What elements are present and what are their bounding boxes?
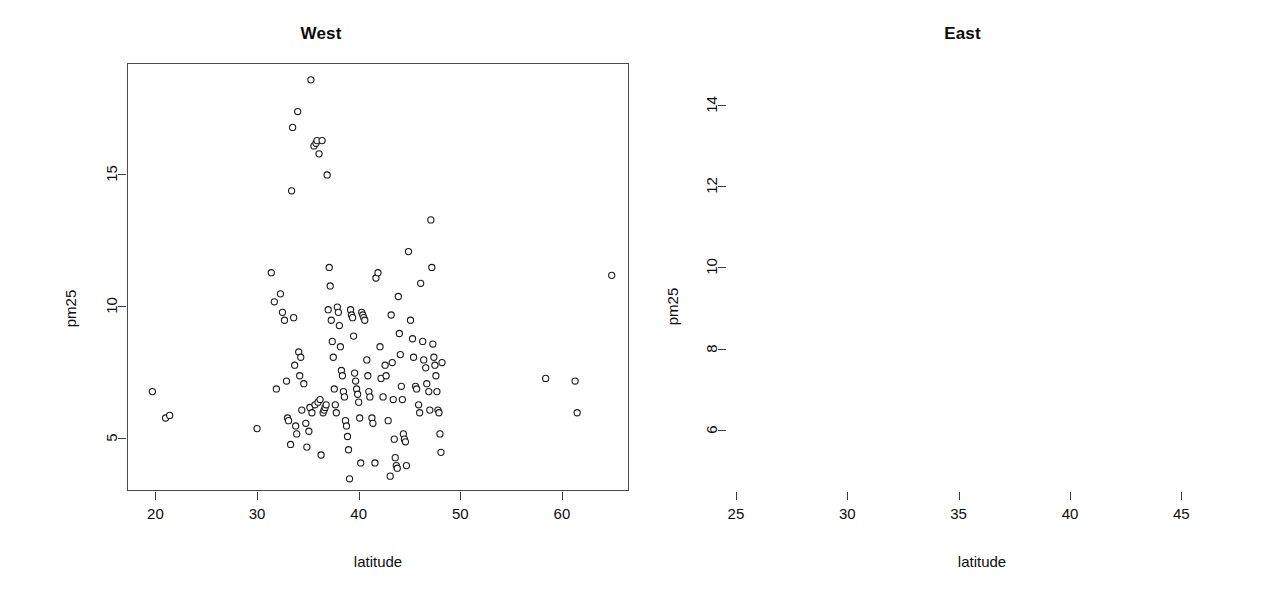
panel-west-ylabel: pm25 bbox=[62, 279, 79, 339]
scatter-point bbox=[433, 373, 439, 379]
scatter-point bbox=[335, 309, 341, 315]
scatter-point bbox=[295, 108, 301, 114]
x-tick-mark bbox=[257, 492, 258, 500]
scatter-point bbox=[428, 217, 434, 223]
panel-west-plot-area bbox=[127, 63, 629, 491]
scatter-point bbox=[306, 428, 312, 434]
scatter-point bbox=[279, 309, 285, 315]
panel-west: West 2030405060 51015 latitude pm25 bbox=[0, 0, 642, 599]
scatter-point bbox=[349, 315, 355, 321]
scatter-point bbox=[439, 359, 445, 365]
scatter-point bbox=[294, 431, 300, 437]
scatter-point bbox=[574, 410, 580, 416]
scatter-point bbox=[426, 389, 432, 395]
scatter-point bbox=[292, 362, 298, 368]
scatter-point bbox=[297, 373, 303, 379]
x-tick-mark bbox=[959, 492, 960, 500]
scatter-point bbox=[421, 357, 427, 363]
scatter-point bbox=[299, 407, 305, 413]
scatter-point bbox=[303, 420, 309, 426]
x-tick-label: 40 bbox=[1062, 505, 1079, 522]
x-tick-label: 30 bbox=[839, 505, 856, 522]
scatter-point bbox=[397, 352, 403, 358]
scatter-point bbox=[358, 460, 364, 466]
scatter-point bbox=[420, 338, 426, 344]
scatter-point bbox=[391, 436, 397, 442]
scatter-point bbox=[437, 431, 443, 437]
scatter-point bbox=[319, 138, 325, 144]
scatter-point bbox=[290, 124, 296, 130]
scatter-point bbox=[429, 264, 435, 270]
scatter-point bbox=[293, 423, 299, 429]
scatter-point bbox=[416, 402, 422, 408]
scatter-point bbox=[325, 307, 331, 313]
scatter-point bbox=[281, 317, 287, 323]
scatter-point bbox=[370, 420, 376, 426]
x-tick-mark bbox=[847, 492, 848, 500]
scatter-point bbox=[392, 455, 398, 461]
scatter-point bbox=[390, 396, 396, 402]
scatter-point bbox=[149, 389, 155, 395]
scatter-point bbox=[405, 248, 411, 254]
y-tick-label: 8 bbox=[703, 336, 720, 360]
scatter-point bbox=[271, 299, 277, 305]
scatter-point bbox=[316, 151, 322, 157]
scatter-point bbox=[317, 396, 323, 402]
scatter-point bbox=[287, 441, 293, 447]
panel-east-ylabel: pm25 bbox=[664, 277, 681, 337]
y-tick-label: 10 bbox=[703, 255, 720, 279]
scatter-point bbox=[432, 362, 438, 368]
scatter-point bbox=[328, 317, 334, 323]
x-tick-mark bbox=[1181, 492, 1182, 500]
x-tick-label: 50 bbox=[452, 505, 469, 522]
scatter-point bbox=[332, 402, 338, 408]
scatter-point bbox=[365, 373, 371, 379]
panel-east: East 2530354045 68101214 latitude pm25 bbox=[642, 0, 1283, 599]
x-tick-mark bbox=[736, 492, 737, 500]
scatter-point bbox=[298, 354, 304, 360]
scatter-point bbox=[273, 386, 279, 392]
scatter-point bbox=[409, 336, 415, 342]
scatter-point bbox=[327, 283, 333, 289]
scatter-point bbox=[357, 415, 363, 421]
scatter-point bbox=[389, 359, 395, 365]
scatter-point bbox=[388, 312, 394, 318]
scatter-point bbox=[254, 425, 260, 431]
scatter-point bbox=[283, 378, 289, 384]
scatter-point bbox=[382, 362, 388, 368]
x-tick-label: 30 bbox=[249, 505, 266, 522]
y-tick-label: 10 bbox=[103, 294, 120, 318]
scatter-point bbox=[339, 373, 345, 379]
scatter-point bbox=[362, 317, 368, 323]
y-tick-label: 14 bbox=[703, 92, 720, 116]
scatter-point bbox=[383, 373, 389, 379]
scatter-point bbox=[410, 354, 416, 360]
x-tick-label: 35 bbox=[950, 505, 967, 522]
panel-west-points-layer bbox=[128, 64, 628, 490]
scatter-point bbox=[372, 460, 378, 466]
figure-canvas: West 2030405060 51015 latitude pm25 East… bbox=[0, 0, 1283, 599]
x-tick-label: 25 bbox=[728, 505, 745, 522]
scatter-point bbox=[308, 77, 314, 83]
scatter-point bbox=[337, 344, 343, 350]
x-tick-mark bbox=[562, 492, 563, 500]
scatter-point bbox=[543, 375, 549, 381]
scatter-point bbox=[277, 291, 283, 297]
scatter-point bbox=[346, 476, 352, 482]
scatter-point bbox=[329, 338, 335, 344]
x-tick-label: 20 bbox=[147, 505, 164, 522]
scatter-point bbox=[423, 365, 429, 371]
scatter-point bbox=[341, 394, 347, 400]
y-tick-label: 6 bbox=[703, 418, 720, 442]
scatter-point bbox=[345, 447, 351, 453]
y-tick-label: 5 bbox=[103, 426, 120, 450]
scatter-point bbox=[351, 333, 357, 339]
scatter-point bbox=[309, 410, 315, 416]
scatter-point bbox=[364, 357, 370, 363]
scatter-point bbox=[434, 389, 440, 395]
panel-east-title: East bbox=[642, 24, 1283, 44]
y-tick-label: 12 bbox=[703, 174, 720, 198]
x-tick-label: 40 bbox=[350, 505, 367, 522]
scatter-point bbox=[285, 418, 291, 424]
scatter-point bbox=[418, 280, 424, 286]
